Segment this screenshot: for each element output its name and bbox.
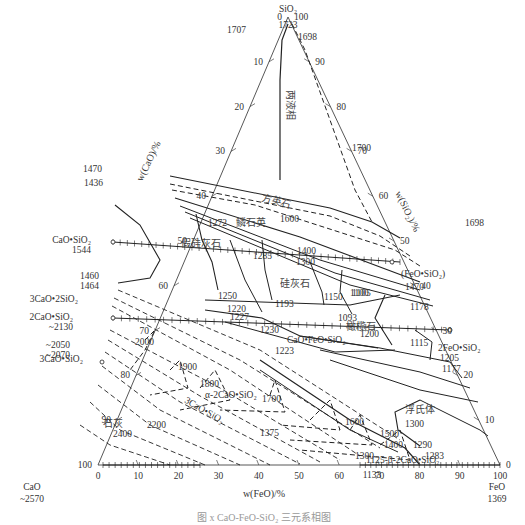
isotherm-label: 2200 (147, 420, 166, 430)
isotherm-label: 1400 (297, 246, 316, 256)
composition-point (390, 260, 394, 264)
isotherm-label: 2400 (113, 429, 132, 439)
edge-temp-left: 1707 (227, 25, 246, 35)
tick-label-bottom: 30 (214, 471, 224, 481)
edge-temp-left: 1464 (80, 281, 99, 291)
composition-point (111, 316, 115, 320)
axis-label-sio2: w(SiO₂)/% (392, 189, 422, 234)
region-wollastonite: 硅灰石 (280, 277, 310, 289)
vertex-feo-temp: 1369 (488, 494, 507, 504)
tick-label-right: 30 (442, 326, 452, 336)
tick-label-left: 20 (235, 102, 245, 112)
tick-bottom (337, 460, 339, 465)
invariant-point-label: 1272 (208, 218, 227, 228)
tick-label-right: 10 (485, 415, 495, 425)
isotherm-dashed-8 (90, 402, 205, 465)
compound-c3s2: 3CaO•2SiO₂ (30, 294, 78, 304)
edge-temp-right: 1177 (442, 364, 461, 374)
invariant-point-label: 1227 (230, 312, 249, 322)
figure-caption: 图 x CaO-FeO-SiO₂ 三元系相图 (197, 511, 331, 523)
edge-temp-left: 1436 (84, 178, 103, 188)
region-wustite: 浮氏体 (405, 404, 435, 415)
edge-temp-left: 1470 (83, 164, 102, 174)
edge-temp-left: ~2070 (46, 350, 70, 360)
isotherm-label: 1375 (260, 428, 279, 438)
tick-label-bottom: 40 (254, 471, 264, 481)
edge-temp-left: ~2050 (46, 340, 70, 350)
isotherm-label: 1900 (178, 362, 197, 372)
tick-label-bottom: 10 (133, 471, 143, 481)
tick-label-right: 60 (379, 191, 389, 201)
tick-label-bottom: 90 (455, 471, 465, 481)
edge-temp-right: 1470 (405, 282, 424, 292)
composition-point (100, 360, 104, 364)
isotherm-label: 1600 (280, 214, 299, 224)
isotherm-label: 1300 (355, 451, 374, 461)
tick-bottom (297, 460, 299, 465)
vertex-cao-name: CaO (23, 482, 41, 492)
edge-temp-left: 1544 (72, 245, 91, 255)
tick-label-left: 100 (78, 460, 93, 470)
region-pseudowollastonite: 假硅灰石 (181, 237, 221, 249)
edge-temp-right: 1698 (298, 32, 317, 42)
axis-label-cao: w(CaO)/% (134, 139, 164, 183)
isotherm-label: 1300 (405, 419, 424, 429)
region-alpha-c2s: α-2CaO•SiO₂ (205, 390, 257, 400)
edge-temp-right: 1205 (440, 353, 459, 363)
tick-label-bottom: 20 (174, 471, 184, 481)
isotherm-label: 1300 (296, 257, 315, 267)
isotherm-label: 1800 (200, 379, 219, 389)
tick-label-right: 100 (294, 12, 309, 22)
region-two-liquid: 两液相 (285, 90, 297, 120)
edge-temp-left: ~2130 (49, 322, 73, 332)
isotherm-label: 1700 (352, 143, 371, 153)
tick-label-left: 30 (216, 146, 226, 156)
tick-label-bottom: 60 (334, 471, 344, 481)
compound-f2s: 2FeO•SiO₂ (438, 343, 481, 353)
tick-label-right: 50 (400, 236, 410, 246)
tick-bottom (136, 460, 138, 465)
isotherm-1283 (260, 370, 398, 452)
region-tridymite: 鳞石英 (236, 216, 266, 228)
invariant-point-label: 1223 (275, 346, 294, 356)
tick-label-right: 90 (315, 57, 325, 67)
isotherm-label: 2000 (135, 337, 154, 347)
tick-label-right: 80 (336, 102, 346, 112)
tick-label-left: 90 (102, 415, 112, 425)
tick-label-left: 50 (178, 236, 188, 246)
region-cristobalite: 方英石 (261, 191, 293, 210)
composition-point (111, 240, 115, 244)
isotherm-label: 1250 (218, 291, 237, 301)
tick-label-left: 40 (197, 191, 207, 201)
tick-label-bottom: 80 (415, 471, 425, 481)
tick-label-left: 80 (121, 370, 131, 380)
isotherm-label: 1290 (413, 440, 432, 450)
edge-temp-bottom: 1133 (363, 470, 382, 480)
tieline-cao (103, 462, 200, 468)
triangle-frame (98, 17, 500, 465)
tick-bottom (176, 460, 178, 465)
tick-label-left: 70 (140, 326, 150, 336)
invariant-point-label: 1105 (352, 288, 371, 298)
invariant-point-label: 1093 (338, 313, 357, 323)
compound-c2s: 2CaO•SiO₂ (29, 312, 73, 322)
ternary-phase-diagram: SiO₂ 1723 CaO ~2570 FeO 1369 w(CaO)/% w(… (0, 0, 525, 525)
isotherm-1700-top (292, 24, 372, 222)
invariant-point-label: 1230 (260, 325, 279, 335)
isotherm-label: 1200 (360, 329, 379, 339)
isotherm-1600-lower (280, 400, 340, 430)
isotherm-label: 1400 (384, 440, 403, 450)
isotherm-dashed-4 (108, 340, 320, 462)
tick-label-right: 0 (506, 460, 511, 470)
vertex-cao-temp: ~2570 (20, 494, 44, 504)
isotherm-label: 1700 (262, 394, 281, 404)
isotherm-label: 1600 (345, 417, 364, 427)
tick-label-right: 20 (464, 370, 474, 380)
isotherm-label: 1283 (425, 451, 444, 461)
isotherm-label: 1150 (324, 292, 343, 302)
edge-temp-right: 1178 (410, 302, 429, 312)
tieline-c2s-f2s (113, 315, 450, 333)
invariant-point-label: 1115 (410, 338, 429, 348)
tick-label-left: 60 (159, 281, 169, 291)
tick-label-bottom: 100 (493, 471, 508, 481)
